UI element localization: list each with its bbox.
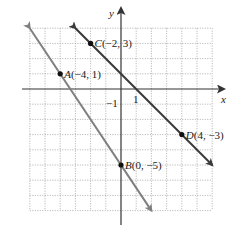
point-label-C: C(−2, 3) bbox=[95, 37, 133, 50]
point-C bbox=[88, 41, 93, 46]
coordinate-plane: x y 1 −1 A(−4, 1)B(0, −5)C(−2, 3)D(4, −3… bbox=[0, 0, 241, 237]
point-label-D: D(4, −3) bbox=[185, 129, 224, 142]
point-label-B: B(0, −5) bbox=[125, 159, 162, 172]
x-tick-label: 1 bbox=[133, 93, 139, 105]
point-B bbox=[118, 162, 123, 167]
x-axis-label: x bbox=[220, 93, 226, 105]
point-label-A: A(−4, 1) bbox=[63, 68, 101, 81]
point-A bbox=[58, 71, 63, 76]
point-D bbox=[179, 132, 184, 137]
y-axis-label: y bbox=[108, 7, 114, 19]
y-tick-label: −1 bbox=[106, 97, 118, 109]
